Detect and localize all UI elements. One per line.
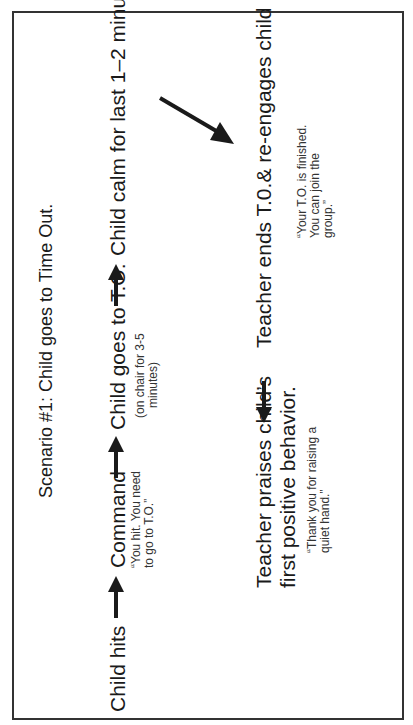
step-teacher-praises-line2: first positive behavior. xyxy=(276,386,300,588)
arrow-right-icon xyxy=(106,264,126,306)
step-command: Command xyxy=(106,471,130,568)
step-teacher-praises-line1: Teacher praises child’s xyxy=(252,376,276,588)
praise-note-line2: quiet hand.” xyxy=(319,490,332,553)
ends-note-line3: group.” xyxy=(322,200,335,238)
step-child-calm: Child calm for last 1–2 minutes xyxy=(106,0,130,256)
arrow-diagonal-icon xyxy=(154,88,244,158)
arrow-right-icon xyxy=(106,436,126,478)
scenario-title: Scenario #1: Child goes to Time Out. xyxy=(36,204,57,498)
to-note-line2: minutes) xyxy=(147,362,160,408)
step-child-hits: Child hits xyxy=(106,626,130,712)
command-note-line2: to go to T.O.” xyxy=(143,499,156,568)
step-teacher-ends-to: Teacher ends T.0.& re-engages child xyxy=(252,8,276,349)
arrow-right-icon xyxy=(106,576,126,618)
diagram-frame: Scenario #1: Child goes to Time Out. Chi… xyxy=(12,11,404,720)
rotated-diagram: Scenario #1: Child goes to Time Out. Chi… xyxy=(0,0,413,725)
